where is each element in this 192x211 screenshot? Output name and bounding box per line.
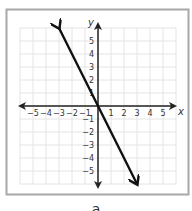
x-tick-label: −5	[27, 109, 39, 118]
y-tick-label: 4	[89, 50, 94, 59]
y-axis-label: y	[87, 17, 95, 28]
x-tick-label: 5	[160, 109, 165, 118]
y-tick-label: −4	[82, 154, 94, 163]
x-tick-label: −4	[40, 109, 52, 118]
x-tick-label: 1	[108, 109, 113, 118]
y-tick-label: 5	[89, 37, 94, 46]
coordinate-graph: −5−4−3−2−11234554321−1−2−3−4−5 x y	[0, 0, 192, 211]
y-tick-label: 3	[89, 63, 94, 72]
y-tick-label: −1	[82, 115, 94, 124]
y-tick-label: 2	[89, 76, 94, 85]
x-tick-label: 4	[147, 109, 152, 118]
y-tick-label: −5	[82, 167, 94, 176]
x-tick-label: −2	[66, 109, 78, 118]
x-tick-label: 3	[134, 109, 139, 118]
x-tick-label: 2	[121, 109, 126, 118]
y-tick-label: −2	[82, 128, 94, 137]
x-tick-label: −3	[53, 109, 65, 118]
y-tick-label: −3	[82, 141, 94, 150]
x-axis-label: x	[177, 106, 184, 117]
graph-caption: a	[0, 201, 192, 211]
